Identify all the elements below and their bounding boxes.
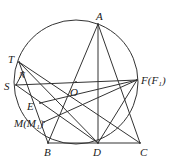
label-M: M(M₁) <box>13 117 44 130</box>
point-A <box>97 23 99 25</box>
label-F: F(F₁) <box>140 74 166 87</box>
label-B: B <box>44 146 51 158</box>
point-T <box>18 61 20 63</box>
point-E <box>39 102 41 104</box>
point-S <box>15 84 17 86</box>
point-D <box>97 142 99 144</box>
label-N: N <box>18 70 26 80</box>
label-D: D <box>92 146 101 158</box>
segment-SD <box>16 85 98 143</box>
point-B <box>47 142 49 144</box>
label-A: A <box>95 10 103 22</box>
label-O: O <box>70 86 78 98</box>
label-T: T <box>8 53 15 65</box>
label-E: E <box>26 100 34 112</box>
point-O <box>75 81 77 83</box>
point-C <box>139 142 141 144</box>
segment-DF <box>98 80 137 143</box>
segment-AC <box>98 24 140 143</box>
point-F <box>136 79 138 81</box>
label-C: C <box>140 146 148 158</box>
geometry-diagram: A T N S O F(F₁) E M(M₁) B D C <box>0 0 174 162</box>
label-S: S <box>4 80 10 92</box>
segment-MF <box>44 80 137 122</box>
